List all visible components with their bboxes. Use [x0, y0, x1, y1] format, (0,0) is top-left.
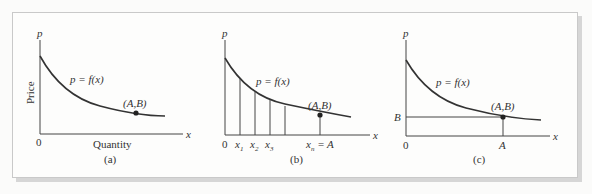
y-axis-label: p — [36, 27, 43, 39]
y-tick-B: B — [394, 111, 401, 123]
caption-c: (c) — [473, 153, 486, 166]
demand-curve-figure: p x 0 p = f(x) (A,B) Price Quantity (a) … — [0, 0, 592, 194]
point-AB — [317, 112, 322, 117]
demand-curve — [406, 60, 541, 120]
tick-x1: x1 — [234, 138, 243, 153]
caption-a: (a) — [104, 153, 117, 166]
origin-label: 0 — [36, 136, 42, 148]
y-axis-label: p — [402, 27, 409, 39]
panel-a: p x 0 p = f(x) (A,B) Price Quantity (a) — [24, 27, 191, 166]
origin-label: 0 — [222, 138, 228, 150]
panel-b: p x 0 p = f(x) (A,B) x1 x2 x3 xn = A (b) — [221, 27, 378, 166]
point-AB — [133, 110, 138, 115]
curve-label: p = f(x) — [69, 73, 104, 86]
x-axis-label: x — [552, 130, 558, 142]
point-AB — [500, 114, 505, 119]
tick-xn-equals-A: xn = A — [305, 138, 334, 153]
x-axis-label: x — [372, 129, 378, 141]
y-axis-title: Price — [24, 81, 36, 104]
point-label: (A,B) — [491, 100, 515, 113]
tick-x3: x3 — [264, 138, 274, 153]
y-axis-label: p — [221, 27, 228, 39]
x-axis-title: Quantity — [93, 138, 132, 150]
curve-label: p = f(x) — [435, 76, 470, 89]
x-tick-A: A — [498, 139, 506, 151]
origin-label: 0 — [403, 139, 409, 151]
point-label: (A,B) — [308, 99, 332, 112]
point-label: (A,B) — [123, 97, 147, 110]
panel-c: p x 0 p = f(x) (A,B) B A (c) — [394, 27, 558, 166]
x-axis-label: x — [185, 128, 191, 140]
tick-x2: x2 — [249, 138, 259, 153]
curve-label: p = f(x) — [255, 75, 290, 88]
demand-curve — [225, 58, 351, 117]
caption-b: (b) — [290, 153, 303, 166]
